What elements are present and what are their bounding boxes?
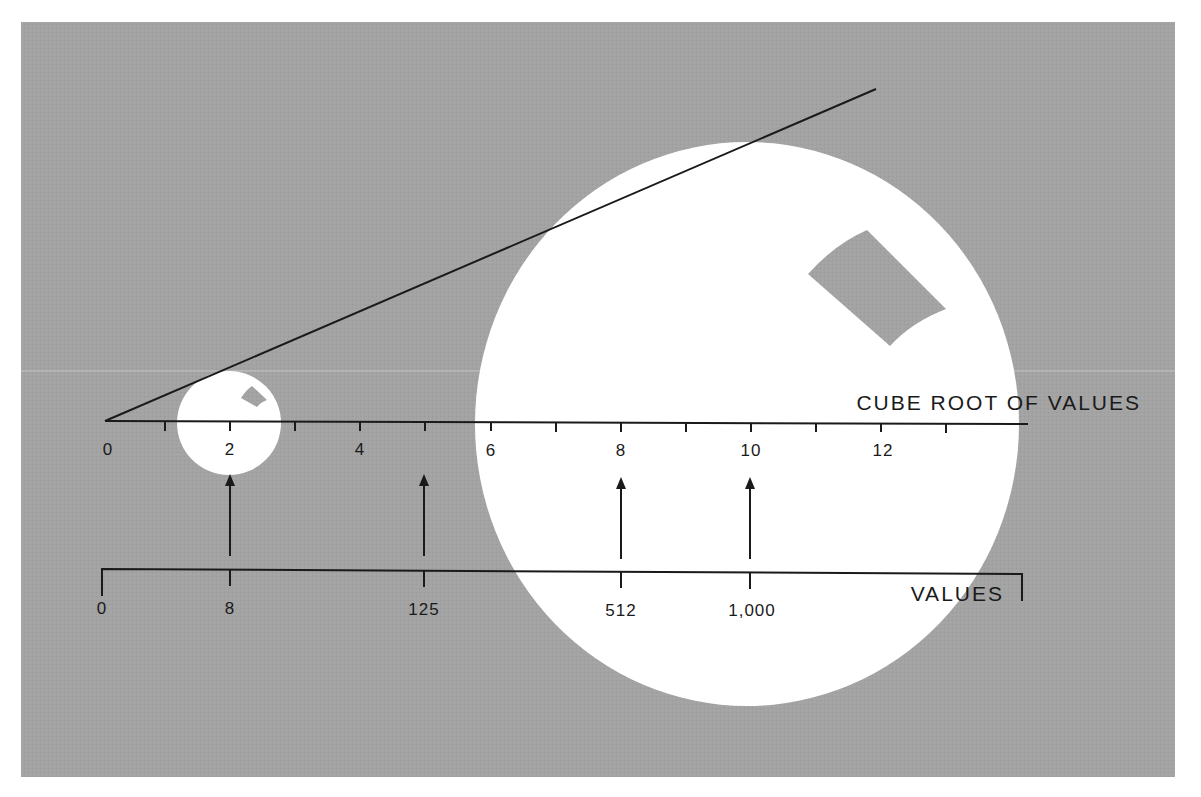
cube-root-label-8: 8 <box>616 441 626 460</box>
cube-root-label-0: 0 <box>103 440 113 459</box>
values-label-1000: 1,000 <box>728 601 776 620</box>
cube-root-label-4: 4 <box>355 440 365 459</box>
cube-root-label-12: 12 <box>873 441 894 460</box>
values-label-8: 8 <box>225 599 235 618</box>
cube-root-diagram: 0 2 4 6 8 10 12 CUBE ROOT OF VALUES <box>0 0 1201 797</box>
values-axis-title: VALUES <box>911 582 1004 605</box>
cube-root-label-10: 10 <box>741 441 762 460</box>
values-label-125: 125 <box>408 600 439 619</box>
values-label-512: 512 <box>605 601 636 620</box>
cube-root-axis-title: CUBE ROOT OF VALUES <box>856 391 1141 414</box>
cube-root-label-2: 2 <box>225 440 235 459</box>
cube-root-label-6: 6 <box>486 441 496 460</box>
values-label-0: 0 <box>97 599 107 618</box>
